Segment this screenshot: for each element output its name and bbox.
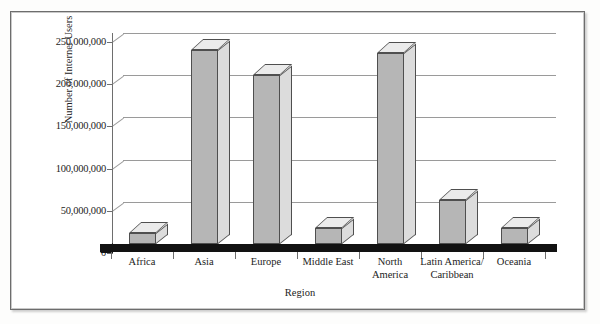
bar	[501, 228, 528, 244]
bar-side-face	[280, 66, 292, 244]
y-axis-tick-label: 100,000,000	[6, 163, 106, 174]
y-axis-tick-label: 250,000,000	[6, 36, 106, 47]
y-axis-labels: 050,000,000100,000,000150,000,000200,000…	[0, 33, 106, 246]
y-axis-tick-label: 150,000,000	[6, 120, 106, 131]
chart-figure: Number of Internet Users 050,000,000100,…	[0, 0, 600, 324]
y-axis-tick-label: 50,000,000	[6, 205, 106, 216]
bars-layer	[112, 33, 557, 244]
bar	[253, 75, 280, 244]
y-axis-tick-label: 0	[6, 247, 106, 258]
bar	[315, 228, 342, 244]
bar-front-face	[501, 228, 528, 244]
y-axis-tick-label: 200,000,000	[6, 78, 106, 89]
x-axis-labels: AfricaAsiaEuropeMiddle EastNorthAmericaL…	[100, 254, 560, 288]
bar	[439, 200, 466, 244]
chart-floor	[100, 244, 557, 252]
x-axis-tick-label: Oceania	[469, 256, 559, 269]
bar-side-face	[218, 41, 230, 244]
bar	[377, 53, 404, 244]
x-axis-title: Region	[0, 287, 600, 298]
bar	[129, 233, 156, 244]
bar-front-face	[439, 200, 466, 244]
bar-front-face	[191, 50, 218, 244]
x-axis-tick-label-line: Caribbean	[407, 269, 497, 282]
x-axis-tick-label-line: Oceania	[469, 256, 559, 269]
bar-front-face	[129, 233, 156, 244]
bar-front-face	[315, 228, 342, 244]
bar-front-face	[377, 53, 404, 244]
bar-side-face	[404, 44, 416, 244]
bar-front-face	[253, 75, 280, 244]
bar	[191, 50, 218, 244]
